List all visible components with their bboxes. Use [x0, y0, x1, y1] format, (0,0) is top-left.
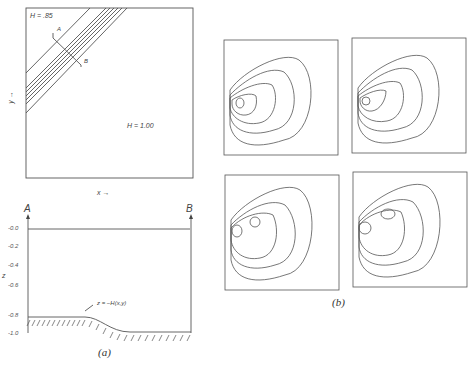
- z-axis-label: z: [2, 272, 6, 279]
- section-end-label: B: [84, 58, 88, 64]
- z-tick: -0.2: [8, 243, 18, 249]
- section-start-label: A: [57, 26, 61, 32]
- contour-plot-3: [225, 175, 339, 290]
- z-tick: -0.8: [8, 312, 18, 318]
- z-tick: -1.0: [8, 330, 18, 336]
- z-tick: -0.4: [8, 262, 18, 268]
- section-label-a: A: [24, 203, 31, 214]
- y-axis-label: y →: [7, 91, 14, 103]
- contour-plot-1: [224, 40, 338, 155]
- z-tick: -0.0: [8, 225, 18, 231]
- depth-label-shallow: H = .85: [30, 12, 53, 19]
- contour-plots: [224, 38, 467, 290]
- depth-label-deep: H = 1.00: [127, 122, 154, 129]
- bottom-annotation: z = −H(x,y): [97, 300, 126, 306]
- z-tick: -0.6: [8, 282, 18, 288]
- x-axis-label: x →: [97, 189, 109, 196]
- section-label-b: B: [186, 203, 193, 214]
- caption-a: (a): [98, 346, 111, 358]
- figure-canvas: [0, 0, 472, 367]
- contour-plot-2: [352, 38, 466, 153]
- contour-plot-4: [353, 172, 467, 287]
- section-line-ab: [53, 33, 81, 67]
- caption-b: (b): [332, 296, 345, 308]
- plan-view-frame: [26, 8, 193, 178]
